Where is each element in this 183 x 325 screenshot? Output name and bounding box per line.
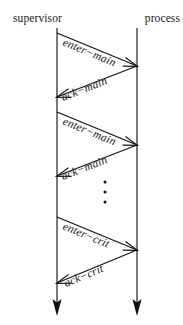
lifeline-process: [132, 28, 141, 316]
message-arrowhead: [123, 242, 138, 251]
message-label-enter-crit: enter−crit: [61, 220, 112, 250]
sequence-diagram: supervisor process enter−main ack−main: [0, 0, 183, 325]
participant-label-process: process: [145, 12, 181, 25]
message-label-ack-main-2: ack−main: [59, 153, 108, 182]
message-label-enter-main-2: enter−main: [61, 115, 118, 148]
message-enter-main-2: enter−main: [57, 112, 138, 147]
message-ack-main-1: ack−main: [57, 66, 138, 103]
message-enter-main-1: enter−main: [57, 33, 138, 68]
ellipsis-dot: [104, 201, 107, 204]
message-arrowhead: [123, 137, 138, 146]
message-label-ack-main-1: ack−main: [59, 74, 108, 103]
ellipsis-dot: [104, 181, 107, 184]
sequence-diagram-canvas: supervisor process enter−main ack−main: [0, 0, 183, 325]
message-arrowhead: [123, 58, 138, 67]
message-label-enter-main-1: enter−main: [61, 36, 118, 69]
vertical-ellipsis: [104, 181, 107, 204]
message-label-ack-crit: ack−crit: [62, 262, 105, 289]
participant-label-supervisor: supervisor: [13, 12, 62, 25]
message-ack-main-2: ack−main: [57, 145, 138, 182]
ellipsis-dot: [104, 191, 107, 194]
message-enter-crit: enter−crit: [57, 217, 138, 250]
message-ack-crit: ack−crit: [57, 250, 138, 289]
